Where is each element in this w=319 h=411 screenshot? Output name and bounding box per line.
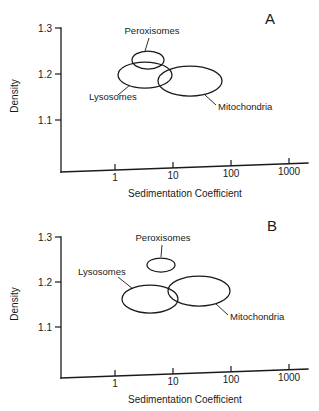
panel-b-xtick-label-1: 10: [167, 376, 179, 387]
panel-a-xtick-label-2: 100: [223, 168, 240, 179]
chart-panel-a: A 1.3 1.2 1.1 1 10 100 1000 Sedimentatio…: [0, 0, 319, 205]
panel-b-leader-peroxisomes: [161, 245, 162, 257]
panel-a-xtick-label-3: 1000: [278, 166, 301, 177]
panel-a-y-axis-title: Density: [9, 79, 20, 112]
panel-b-blob-mitochondria: [168, 276, 230, 306]
panel-b-label-peroxisomes: Peroxisomes: [136, 232, 191, 243]
panel-a-label-mitochondria: Mitochondria: [218, 101, 273, 112]
panel-b-blob-lysosomes: [122, 285, 178, 313]
panel-b-leader-mitochondria: [216, 304, 228, 315]
panel-a-leader-mitochondria: [205, 95, 216, 105]
panel-a-plot: A 1.3 1.2 1.1 1 10 100 1000 Sedimentatio…: [0, 0, 319, 205]
panel-a-letter: A: [265, 10, 275, 27]
panel-b-xtick-label-0: 1: [112, 378, 118, 389]
panel-a-ytick-label-2: 1.1: [38, 115, 52, 126]
panel-b-x-axis-title: Sedimentation Coefficient: [128, 394, 242, 405]
panel-b-ytick-label-0: 1.3: [38, 232, 52, 243]
panel-b-x-axis: [61, 369, 308, 378]
panel-a-xtick-label-1: 10: [167, 170, 179, 181]
panel-b-xtick-label-2: 100: [223, 374, 240, 385]
panel-a-leader-peroxisomes: [145, 38, 149, 51]
panel-a-ytick-label-0: 1.3: [38, 23, 52, 34]
panel-b-y-axis-title: Density: [9, 287, 20, 320]
panel-b-ytick-label-2: 1.1: [38, 322, 52, 333]
panel-b-plot: B 1.3 1.2 1.1 1 10 100 1000 Sedimentatio…: [0, 205, 319, 411]
panel-a-x-axis: [61, 163, 308, 172]
panel-b-xtick-label-3: 1000: [278, 372, 301, 383]
panel-b-label-lysosomes: Lysosomes: [78, 266, 126, 277]
panel-a-blob-mitochondria: [158, 66, 222, 96]
panel-b-letter: B: [267, 217, 277, 234]
panel-a-label-peroxisomes: Peroxisomes: [125, 25, 180, 36]
panel-b-blob-peroxisomes: [147, 258, 175, 272]
chart-panel-b: B 1.3 1.2 1.1 1 10 100 1000 Sedimentatio…: [0, 205, 319, 411]
panel-a-ytick-label-1: 1.2: [38, 69, 52, 80]
panel-a-blob-lysosomes: [118, 62, 172, 88]
panel-a-xtick-label-0: 1: [112, 172, 118, 183]
panel-b-label-mitochondria: Mitochondria: [230, 311, 285, 322]
panel-b-leader-lysosomes: [118, 277, 133, 289]
panel-a-x-axis-title: Sedimentation Coefficient: [128, 188, 242, 199]
panel-a-label-lysosomes: Lysosomes: [89, 91, 137, 102]
panel-a-blob-peroxisomes: [132, 51, 164, 69]
panel-b-ytick-label-1: 1.2: [38, 277, 52, 288]
